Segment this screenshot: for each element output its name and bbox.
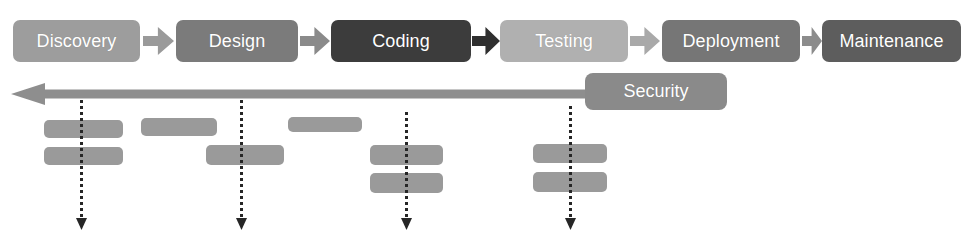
arrow-right-icon	[143, 27, 174, 55]
dotted-arrow-1	[75, 100, 88, 230]
dotted-arrow-3	[400, 112, 413, 230]
security-box[interactable]: Security	[585, 73, 727, 110]
security-label: Security	[623, 81, 688, 102]
arrow-right-icon	[300, 27, 330, 55]
dotted-arrow-2	[235, 100, 248, 230]
stage-label-deployment: Deployment	[682, 31, 779, 52]
stage-box-coding[interactable]: Coding	[331, 20, 471, 62]
security-arrow-left-icon	[11, 83, 589, 105]
bar-group3-row1	[288, 117, 362, 132]
arrow-right-icon	[472, 27, 500, 55]
diagram-canvas: Discovery Design Coding Testing Deployme…	[0, 0, 971, 238]
bar-group2-row1	[141, 118, 217, 136]
stage-label-testing: Testing	[535, 31, 593, 52]
stage-label-coding: Coding	[372, 31, 430, 52]
stage-label-discovery: Discovery	[37, 31, 117, 52]
stage-label-design: Design	[209, 31, 266, 52]
stage-label-maintenance: Maintenance	[839, 31, 943, 52]
arrow-right-icon	[802, 27, 822, 55]
arrow-right-icon	[630, 27, 660, 55]
stage-box-design[interactable]: Design	[176, 20, 298, 62]
stage-box-testing[interactable]: Testing	[500, 20, 628, 62]
stage-box-maintenance[interactable]: Maintenance	[822, 20, 961, 62]
dotted-arrow-4	[564, 106, 577, 230]
stage-box-discovery[interactable]: Discovery	[13, 20, 140, 62]
stage-box-deployment[interactable]: Deployment	[662, 20, 800, 62]
